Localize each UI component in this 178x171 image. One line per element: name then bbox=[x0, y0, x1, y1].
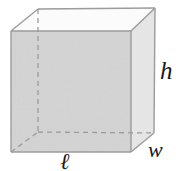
width-label: w bbox=[148, 139, 163, 161]
top-face bbox=[11, 8, 155, 31]
edge-back-right-vertical bbox=[154, 8, 155, 133]
edge-top-back bbox=[38, 8, 155, 9]
rectangular-prism-figure: h w ℓ bbox=[0, 0, 178, 171]
height-label: h bbox=[160, 58, 173, 83]
length-label: ℓ bbox=[60, 150, 70, 171]
